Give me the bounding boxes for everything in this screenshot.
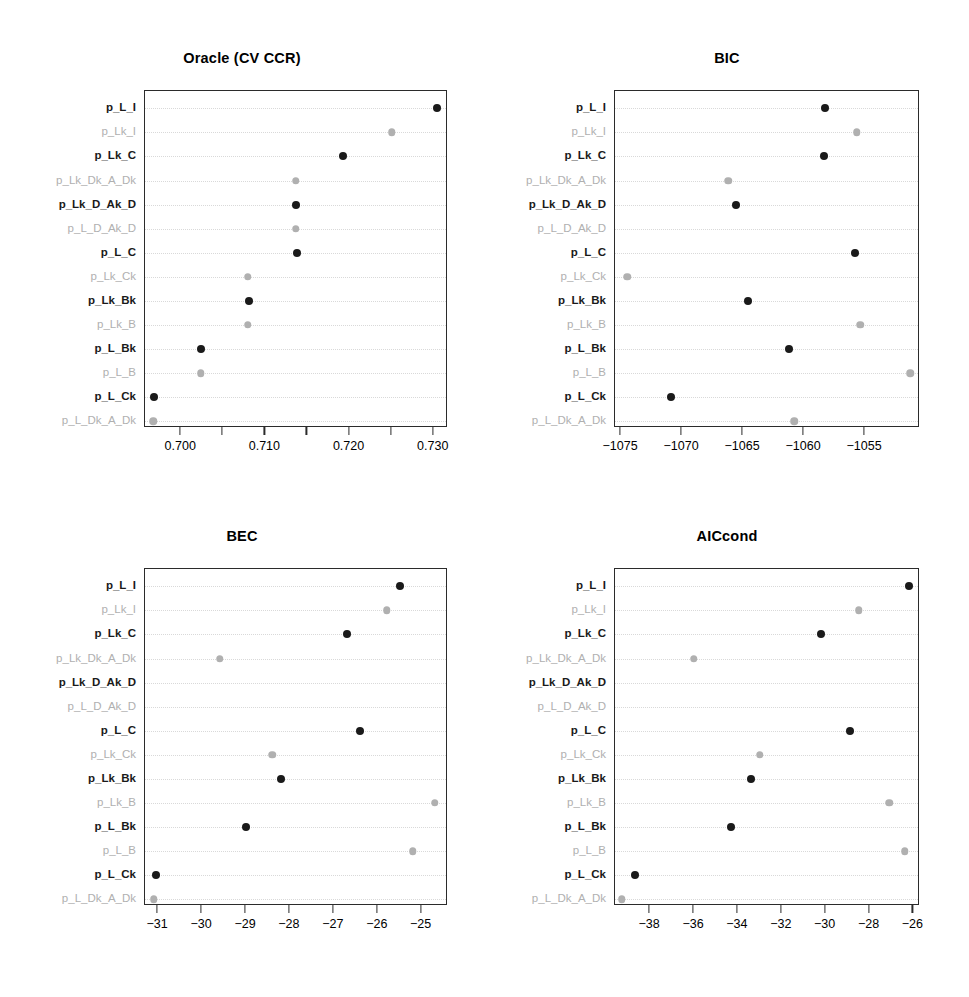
x-axis-tick — [332, 905, 333, 913]
grid-line-row — [145, 683, 446, 684]
x-axis-tick-label: −1065 — [725, 439, 760, 453]
row-label: p_Lk_D_Ak_D — [529, 198, 606, 210]
grid-line-row — [615, 610, 918, 611]
row-label: p_L_I — [576, 101, 606, 113]
row-label: p_Lk_Ck — [91, 270, 136, 282]
data-point — [292, 177, 300, 185]
grid-line-row — [145, 132, 446, 133]
grid-line-row — [615, 755, 918, 756]
data-point — [245, 297, 253, 305]
grid-line-row — [615, 277, 918, 278]
x-axis-tick — [649, 905, 650, 913]
panel-oracle: Oracle (CV CCR) p_L_Ip_Lk_Ip_Lk_Cp_Lk_Dk… — [0, 40, 484, 510]
data-point — [150, 896, 158, 904]
grid-line-row — [615, 803, 918, 804]
row-label: p_Lk_B — [97, 796, 136, 808]
x-axis-tick-label: 0.720 — [333, 439, 364, 453]
x-axis-tick — [864, 427, 865, 435]
grid-line-row — [615, 301, 918, 302]
grid-line-row — [145, 108, 446, 109]
x-axis-tick-label: −32 — [770, 917, 791, 931]
x-axis-tick — [681, 427, 682, 435]
row-label: p_Lk_Ck — [91, 748, 136, 760]
grid-line-row — [145, 875, 446, 876]
data-point — [901, 847, 909, 855]
grid-line-row — [145, 634, 446, 635]
x-axis-tick — [824, 905, 825, 913]
grid-line-row — [615, 827, 918, 828]
x-axis-tick-label: 0.710 — [249, 439, 280, 453]
x-axis-tick — [180, 427, 181, 435]
data-point — [727, 823, 735, 831]
data-point — [817, 630, 825, 638]
x-axis-tick-label: −26 — [366, 917, 387, 931]
row-label: p_L_Ck — [94, 390, 136, 402]
row-label: p_Lk_Dk_A_Dk — [526, 174, 606, 186]
grid-line-row — [145, 325, 446, 326]
x-axis-tick-label: −28 — [278, 917, 299, 931]
data-point — [732, 201, 740, 209]
plot-area-bec — [144, 568, 447, 905]
panel-aiccond: AICcond p_L_Ip_Lk_Ip_Lk_Cp_Lk_Dk_A_Dkp_L… — [485, 518, 969, 988]
x-axis-tick-label: −30 — [190, 917, 211, 931]
row-label: p_L_C — [571, 724, 606, 736]
grid-line-row — [145, 421, 446, 422]
row-label: p_Lk_C — [564, 149, 606, 161]
data-point — [356, 727, 364, 735]
x-axis-tick-label: 0.700 — [165, 439, 196, 453]
x-axis-tick — [803, 427, 804, 435]
row-label: p_Lk_Dk_A_Dk — [56, 652, 136, 664]
row-label: p_L_I — [576, 579, 606, 591]
grid-line-row — [615, 634, 918, 635]
row-label: p_Lk_Bk — [88, 294, 136, 306]
x-axis-tick-label: −30 — [814, 917, 835, 931]
x-axis-tick-label: −27 — [322, 917, 343, 931]
row-label: p_L_Dk_A_Dk — [532, 892, 606, 904]
row-label: p_L_Bk — [94, 342, 136, 354]
row-label: p_Lk_B — [567, 318, 606, 330]
figure-canvas: Oracle (CV CCR) p_L_Ip_Lk_Ip_Lk_Cp_Lk_Dk… — [0, 0, 969, 997]
plot-area-aiccond — [614, 568, 919, 905]
grid-line-row — [615, 851, 918, 852]
data-point — [906, 369, 914, 377]
x-axis-tick-label: −38 — [638, 917, 659, 931]
data-point — [856, 321, 864, 329]
row-label: p_Lk_D_Ak_D — [59, 198, 136, 210]
grid-line-row — [145, 899, 446, 900]
x-axis-tick — [912, 905, 913, 913]
data-point — [851, 249, 859, 257]
grid-line-row — [145, 156, 446, 157]
data-point — [905, 582, 913, 590]
data-point — [433, 104, 441, 112]
data-point — [631, 871, 639, 879]
row-label: p_Lk_Dk_A_Dk — [56, 174, 136, 186]
data-point — [339, 152, 347, 160]
x-axis-tick-label: −1075 — [603, 439, 638, 453]
grid-line-row — [615, 156, 918, 157]
row-label: p_Lk_B — [97, 318, 136, 330]
grid-line-row — [145, 803, 446, 804]
grid-line-row — [145, 827, 446, 828]
data-point — [242, 823, 250, 831]
data-point — [623, 273, 631, 281]
x-axis-tick — [742, 427, 743, 435]
data-point — [269, 751, 277, 759]
data-point — [216, 655, 224, 663]
x-axis-tick — [200, 905, 201, 913]
x-axis-tick-label: −28 — [858, 917, 879, 931]
row-label: p_L_Dk_A_Dk — [62, 892, 136, 904]
row-label: p_Lk_Dk_A_Dk — [526, 652, 606, 664]
data-point — [197, 369, 205, 377]
grid-line-row — [615, 108, 918, 109]
x-axis-tick-label: −34 — [726, 917, 747, 931]
row-label: p_Lk_Bk — [558, 294, 606, 306]
grid-line-row — [145, 851, 446, 852]
x-axis-tick-label: −29 — [234, 917, 255, 931]
grid-line-row — [615, 707, 918, 708]
row-label-column-bec: p_L_Ip_Lk_Ip_Lk_Cp_Lk_Dk_A_Dkp_Lk_D_Ak_D… — [0, 518, 136, 988]
x-axis-tick — [376, 905, 377, 913]
grid-line-row — [615, 205, 918, 206]
row-label: p_Lk_Ck — [561, 270, 606, 282]
data-point — [747, 775, 755, 783]
x-axis-tick — [780, 905, 781, 913]
